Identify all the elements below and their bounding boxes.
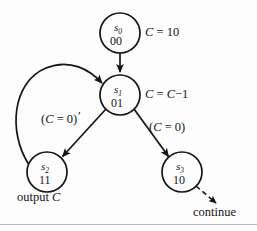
page-rule [0, 224, 257, 225]
annotation-c-decrement: C = C−1 [145, 88, 188, 101]
transition-label-not-count-zero: (C = 0)′ [41, 110, 80, 126]
transition-s3-to-continue [196, 186, 216, 203]
state-code-s2: 11 [39, 174, 51, 186]
prime-mark: ′ [77, 109, 80, 123]
annotation-continue: continue [193, 206, 236, 219]
state-diagram-figure: s0 00 s1 01 s2 11 s3 10 C = 10 C = C−1 (… [0, 0, 257, 231]
state-code-s0: 00 [110, 35, 122, 47]
annotation-output-c: output C [17, 191, 60, 204]
annotation-c-init: C = 10 [145, 26, 179, 39]
state-code-s1: 01 [111, 97, 123, 109]
transition-label-count-zero: (C = 0) [149, 121, 185, 134]
state-code-s3: 10 [173, 174, 185, 186]
